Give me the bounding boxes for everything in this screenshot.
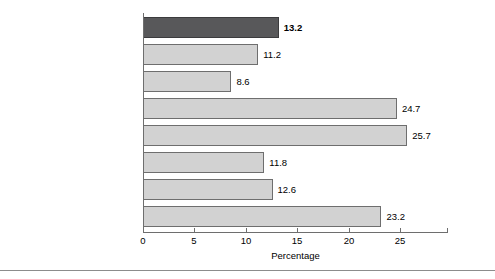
bar <box>143 44 258 65</box>
bar-value-label: 25.7 <box>412 130 431 141</box>
x-axis-tick <box>194 228 195 233</box>
bar-chart-figure: All races13.2White11.2White, non-Hispani… <box>0 0 495 279</box>
x-axis-tick <box>400 228 401 233</box>
x-axis-tick <box>297 228 298 233</box>
bar <box>143 125 407 146</box>
bar-value-label: 13.2 <box>284 22 303 33</box>
bottom-divider-rule <box>0 270 495 271</box>
bar-value-label: 12.6 <box>278 184 297 195</box>
x-axis-tick-label: 25 <box>395 235 406 246</box>
bar <box>143 179 273 200</box>
x-axis-line <box>143 232 448 233</box>
x-axis-title: Percentage <box>143 250 448 261</box>
bar-value-label: 11.8 <box>269 157 287 168</box>
x-axis-tick-label: 20 <box>344 235 355 246</box>
bar <box>143 98 397 119</box>
x-axis-tick <box>143 228 144 233</box>
y-axis-line <box>143 13 144 232</box>
bar-value-label: 24.7 <box>402 103 421 114</box>
bar <box>143 152 264 173</box>
x-axis-tick <box>349 228 350 233</box>
x-axis-tick-label: 5 <box>191 235 196 246</box>
x-axis-tick-label: 15 <box>292 235 303 246</box>
x-axis-tick-label: 10 <box>241 235 252 246</box>
bar-value-label: 23.2 <box>386 211 405 222</box>
x-axis-end-tick <box>447 228 448 233</box>
x-axis-tick-label: 0 <box>140 235 145 246</box>
plot-area: All races13.2White11.2White, non-Hispani… <box>0 0 495 279</box>
x-axis-tick <box>246 228 247 233</box>
bar <box>143 17 279 38</box>
bar <box>143 206 381 227</box>
bar <box>143 71 231 92</box>
bar-value-label: 8.6 <box>236 76 249 87</box>
bar-value-label: 11.2 <box>263 49 281 60</box>
